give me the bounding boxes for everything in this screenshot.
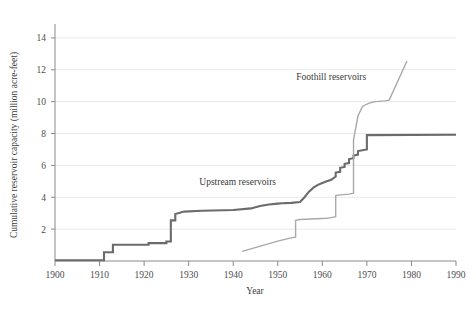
x-axis-title: Year xyxy=(246,286,264,296)
x-tick-label-1990: 1990 xyxy=(447,270,466,280)
y-tick-label-4: 4 xyxy=(41,193,46,203)
x-tick-label-1960: 1960 xyxy=(313,270,332,280)
x-tick-label-1970: 1970 xyxy=(357,270,376,280)
x-tick-label-1950: 1950 xyxy=(268,270,287,280)
reservoir-capacity-line-chart: 2468101214 19001910192019301940195019601… xyxy=(0,0,476,309)
y-tick-label-6: 6 xyxy=(41,161,46,171)
chart-container: 2468101214 19001910192019301940195019601… xyxy=(0,0,476,309)
y-axis-title: Cumulative reservoir capacity (million a… xyxy=(9,52,20,238)
series-label-1: Foothill reservoirs xyxy=(296,72,366,82)
y-tick-label-8: 8 xyxy=(41,129,46,139)
x-tick-label-1940: 1940 xyxy=(224,270,243,280)
chart-background xyxy=(0,0,476,309)
y-tick-label-14: 14 xyxy=(37,33,47,43)
x-tick-label-1930: 1930 xyxy=(179,270,198,280)
x-tick-label-1900: 1900 xyxy=(46,270,65,280)
y-tick-label-2: 2 xyxy=(41,225,46,235)
y-tick-label-10: 10 xyxy=(37,97,47,107)
series-label-0: Upstream reservoirs xyxy=(199,177,276,187)
x-tick-label-1980: 1980 xyxy=(402,270,421,280)
x-tick-label-1920: 1920 xyxy=(135,270,154,280)
y-tick-label-12: 12 xyxy=(37,65,47,75)
x-tick-label-1910: 1910 xyxy=(90,270,109,280)
